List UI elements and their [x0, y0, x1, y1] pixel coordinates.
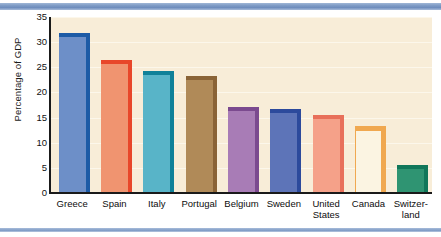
bar-switzerland — [397, 169, 424, 193]
y-tick-label: 5 — [22, 164, 47, 172]
bar-front-face — [101, 64, 128, 193]
bar-italy — [143, 75, 170, 193]
bar-top-corner — [255, 107, 259, 111]
bar-side-face — [297, 113, 301, 193]
bar-front-face — [397, 169, 424, 193]
bar-top-face — [355, 126, 382, 130]
top-decorative-rule — [0, 3, 441, 10]
bar-top-corner — [213, 76, 217, 80]
bar-front-face — [313, 119, 340, 193]
y-tick-label: 30 — [22, 38, 47, 46]
bar-top-face — [101, 60, 128, 64]
y-tick-label: 35 — [22, 13, 47, 21]
bar-top-face — [186, 76, 213, 80]
plot-area — [51, 17, 432, 193]
bar-top-corner — [382, 126, 386, 130]
y-tick-label: 15 — [22, 114, 47, 122]
bar-belgium — [228, 111, 255, 193]
y-tick-label: 25 — [22, 63, 47, 71]
bar-side-face — [86, 37, 90, 193]
bar-side-face — [128, 64, 132, 193]
bar-side-face — [424, 169, 428, 193]
bar-sweden — [270, 113, 297, 193]
bar-united-states — [313, 119, 340, 193]
bar-portugal — [186, 80, 213, 193]
bottom-decorative-rule — [0, 228, 441, 232]
bar-top-face — [59, 33, 86, 37]
bar-front-face — [143, 75, 170, 193]
x-tick-label-switzerland: Switzer-land — [384, 198, 438, 220]
bar-top-face — [228, 107, 255, 111]
bar-front-face — [59, 37, 86, 193]
bar-side-face — [255, 111, 259, 193]
bar-side-face — [340, 119, 344, 193]
bar-greece — [59, 37, 86, 193]
bar-front-face — [186, 80, 213, 193]
y-tick-label: 0 — [22, 189, 47, 197]
bar-top-face — [313, 115, 340, 119]
bar-top-corner — [340, 115, 344, 119]
y-tick-label: 10 — [22, 139, 47, 147]
bar-front-face — [228, 111, 255, 193]
bar-chart: Percentage of GDP 05101520253035 GreeceS… — [0, 12, 441, 226]
bar-top-face — [270, 109, 297, 113]
y-axis-title: Percentage of GDP — [12, 25, 23, 135]
bar-top-face — [397, 165, 424, 169]
y-axis-line — [49, 17, 51, 193]
bar-front-face — [270, 113, 297, 193]
bar-top-corner — [128, 60, 132, 64]
x-axis-tick-labels: GreeceSpainItalyPortugalBelgiumSwedenUni… — [51, 198, 434, 226]
bar-side-face — [213, 80, 217, 193]
gridline — [51, 17, 432, 18]
bar-top-corner — [297, 109, 301, 113]
bar-top-face — [143, 71, 170, 75]
bar-side-face — [170, 75, 174, 193]
bar-canada — [355, 130, 382, 193]
bar-top-corner — [86, 33, 90, 37]
bar-front-face — [355, 130, 382, 193]
bar-top-corner — [170, 71, 174, 75]
bar-top-corner — [424, 165, 428, 169]
gridline — [51, 42, 432, 43]
bar-side-face — [382, 130, 386, 193]
bar-spain — [101, 64, 128, 193]
y-tick-label: 20 — [22, 88, 47, 96]
x-axis-line — [49, 192, 432, 194]
y-axis-tick-labels: 05101520253035 — [22, 12, 47, 192]
